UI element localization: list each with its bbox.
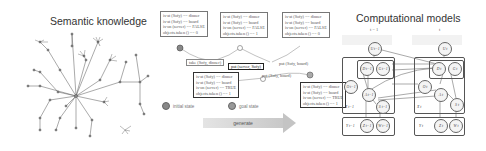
- node-s-curr: S t: [450, 98, 464, 112]
- state-line: is-on (server) == FALSE: [285, 25, 327, 31]
- state-line: is-at (Sofy) == dinner: [223, 14, 265, 20]
- plate-label-curr: X t: [417, 105, 421, 109]
- node-g-prev: G t−1: [376, 62, 390, 76]
- state-line: objects.taken () == 1: [303, 101, 343, 107]
- node-a-curr: A t: [434, 88, 448, 102]
- node-w-curr: W t: [449, 119, 463, 133]
- node-z-prev: Z t−1: [360, 119, 374, 133]
- node-y-curr: Y t: [419, 124, 423, 128]
- semantic-network-graph: [0, 0, 160, 151]
- state-box-3: is-at (Sofy) == dinner is-at (Sofy) == b…: [193, 72, 239, 98]
- action-label-1: take (Sofy, dinner): [186, 59, 224, 66]
- state-line: is-on (server) == TRUE: [303, 95, 343, 101]
- node-g-curr: G t: [448, 62, 462, 76]
- state-box-0: is-at (Sofy) == dinner is-at (Sofy) == b…: [160, 11, 208, 37]
- state-line: is-on (server) == TRUE: [196, 85, 236, 91]
- state-line: objects.taken () == 0: [163, 30, 205, 36]
- node-u-curr: U t: [438, 42, 452, 56]
- node-d-prev: D t−1: [360, 62, 374, 76]
- state-box-2: is-at (Sofy) == dinner is-at (Sofy) == b…: [282, 12, 330, 38]
- state-line: objects.taken () == 1: [196, 91, 236, 97]
- computational-models-panel: Computational models t − 1 t: [340, 0, 486, 151]
- legend-goal-label: goal state: [239, 104, 259, 109]
- state-line: is-at (Sofy) == dinner: [285, 14, 327, 20]
- node-z-curr: Z t: [434, 119, 448, 133]
- legend-initial-label: initial state: [173, 104, 194, 109]
- state-line: is-at (Sofy) == dinner: [163, 13, 205, 19]
- planning-panel: is-at (Sofy) == dinner is-at (Sofy) == b…: [160, 0, 340, 151]
- state-line: is-on (server) == FALSE: [223, 25, 265, 31]
- node-d-curr: D t: [432, 62, 446, 76]
- goal-state-icon: [228, 102, 236, 110]
- action-label-3: put (Sofy, board): [277, 61, 310, 66]
- action-label-4: put (Sofy, board): [260, 73, 293, 78]
- node-a-prev: A t−1: [362, 88, 376, 102]
- action-label-2: put (server, Sofy): [228, 63, 264, 70]
- state-line: objects.taken () == 1: [223, 31, 265, 37]
- node-o-curr: O t: [418, 80, 432, 94]
- node-u-prev: U t−1: [368, 42, 382, 56]
- plate-label-prev: X t−1: [345, 105, 354, 109]
- legend-initial-state: initial state: [162, 102, 194, 110]
- initial-state-icon: [162, 102, 170, 110]
- generate-label: generate: [203, 118, 283, 128]
- state-line: is-at (Sofy) == dinner: [196, 74, 236, 80]
- state-box-1: is-at (Sofy) == dinner is-at (Sofy) == b…: [220, 12, 268, 38]
- semantic-knowledge-panel: Semantic knowledge: [0, 0, 160, 151]
- node-y-prev: Y t−1: [346, 124, 355, 128]
- node-w-prev: W t−1: [376, 119, 390, 133]
- arrow-head-icon: [283, 113, 296, 133]
- state-line: is-on (server) == FALSE: [163, 24, 205, 30]
- generate-arrow: generate: [203, 116, 296, 130]
- node-s-prev: S t−1: [376, 100, 390, 114]
- node-o-prev: O t−1: [344, 80, 358, 94]
- state-line: objects.taken () == 0: [285, 31, 327, 37]
- state-line: is-at (Sofy) == dinner: [303, 84, 343, 90]
- legend-goal-state: goal state: [228, 102, 259, 110]
